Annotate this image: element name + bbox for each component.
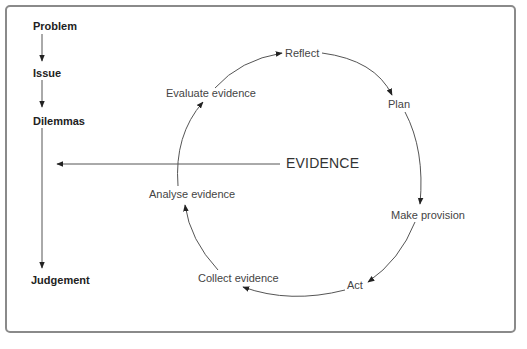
arc-analyse-evaluate: [178, 102, 203, 186]
arc-act-collect: [243, 287, 345, 296]
label-analyse-evidence: Analyse evidence: [149, 188, 235, 200]
arc-makeprovision-act: [368, 222, 415, 282]
arc-collect-analyse: [185, 205, 218, 270]
arc-evaluate-reflect: [215, 53, 282, 88]
label-reflect: Reflect: [285, 47, 319, 59]
label-evidence: EVIDENCE: [286, 157, 359, 169]
label-judgement: Judgement: [31, 274, 90, 286]
label-problem: Problem: [33, 20, 77, 32]
label-make-provision: Make provision: [391, 209, 465, 221]
label-evaluate-evidence: Evaluate evidence: [166, 87, 256, 99]
arc-plan-makeprovision: [405, 112, 421, 204]
label-plan: Plan: [388, 98, 410, 110]
label-collect-evidence: Collect evidence: [198, 272, 279, 284]
arc-reflect-plan: [322, 53, 392, 95]
label-issue: Issue: [33, 67, 61, 79]
diagram-connectors: [0, 0, 527, 349]
label-dilemmas: Dilemmas: [33, 115, 85, 127]
label-act: Act: [347, 279, 363, 291]
